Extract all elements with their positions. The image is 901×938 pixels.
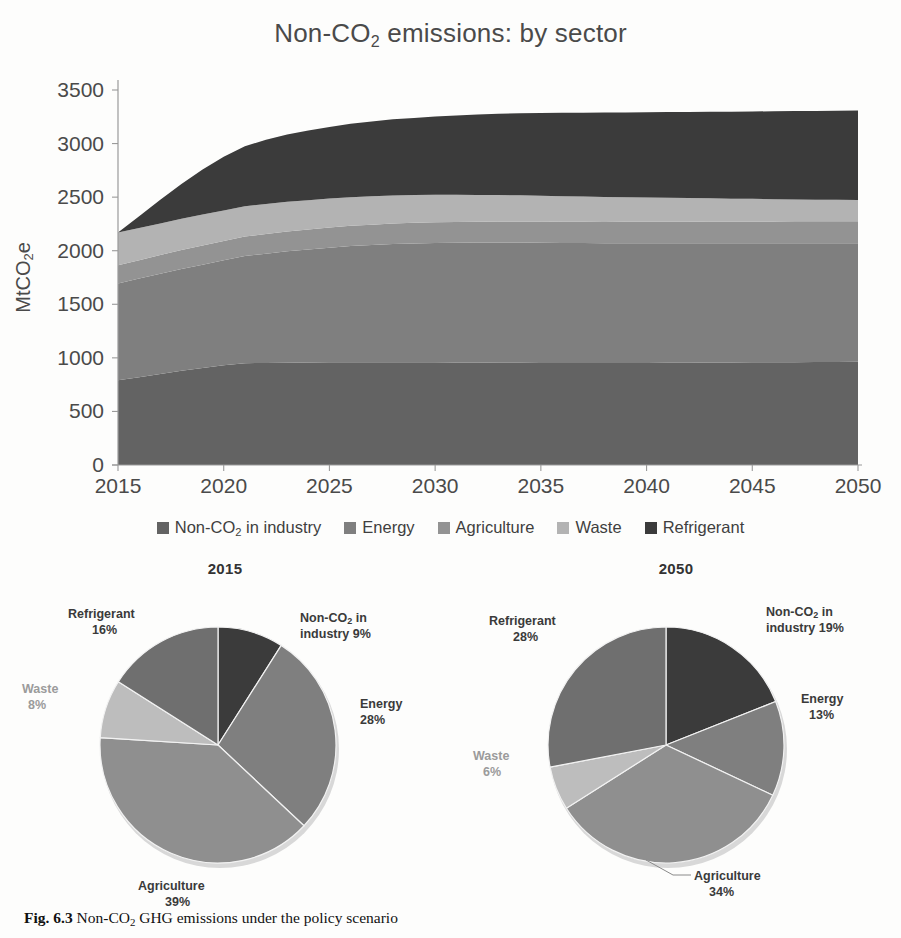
pie-label-non-co2-in-industry: Non-CO2 inindustry 9%	[300, 611, 371, 641]
pie-label-line1: Refrigerant	[489, 614, 557, 628]
y-tick-label: 1000	[57, 346, 104, 369]
pie-svg-2050: Non-CO2 inindustry 19%Energy13%Agricultu…	[451, 560, 901, 910]
y-tick-label: 3000	[57, 132, 104, 155]
legend-label-industry: Non-CO2 in industry	[175, 518, 322, 538]
pie-label-non-co2-in-industry: Non-CO2 inindustry 19%	[766, 605, 844, 635]
pie-chart-2050: 2050 Non-CO2 inindustry 19%Energy13%Agri…	[451, 560, 901, 910]
pie-label-line2: 13%	[809, 708, 834, 722]
x-tick-label: 2020	[200, 474, 247, 497]
pie-label-line1: Agriculture	[694, 869, 761, 883]
legend-label-waste: Waste	[575, 518, 621, 537]
area-chart-svg: 0500100015002000250030003500 20152020202…	[0, 70, 901, 520]
y-tick-label: 0	[92, 453, 104, 476]
x-tick-label: 2050	[835, 474, 882, 497]
pie-label-line2: industry 19%	[766, 621, 844, 635]
caption-text-a: Non-CO	[77, 909, 130, 926]
x-tick-label: 2015	[95, 474, 142, 497]
area-band-energy	[118, 242, 858, 380]
x-axis-tick-labels: 20152020202520302035204020452050	[95, 474, 882, 497]
caption-text-b: GHG emissions under the policy scenario	[135, 909, 398, 926]
stacked-area-chart: 0500100015002000250030003500 20152020202…	[0, 70, 901, 520]
pie-label-line2: 16%	[92, 623, 117, 637]
pie-label-agriculture: Agriculture39%	[138, 879, 205, 909]
pie-label-refrigerant: Refrigerant16%	[68, 607, 136, 637]
y-axis-tick-labels: 0500100015002000250030003500	[57, 78, 104, 476]
pie-label-line1: Non-CO2 in	[766, 605, 833, 620]
area-series-bands	[118, 110, 858, 465]
pie-charts-row: 2015 Non-CO2 inindustry 9%Energy28%Agric…	[0, 560, 901, 910]
pie-label-refrigerant: Refrigerant28%	[489, 614, 557, 644]
pie-label-energy: Energy13%	[801, 692, 843, 722]
legend-swatch-energy-icon	[344, 522, 356, 534]
y-tick-label: 2000	[57, 239, 104, 262]
y-axis-title: MtCO2e	[12, 242, 36, 313]
caption-label: Fig. 6.3	[24, 909, 73, 926]
chart-legend: Non-CO2 in industryEnergyAgricultureWast…	[0, 518, 901, 538]
figure-title-subscript: 2	[371, 32, 380, 50]
area-band-non-co2-in-industry	[118, 362, 858, 465]
pie-slice-refrigerant[interactable]	[548, 627, 666, 767]
pie-label-energy: Energy28%	[360, 697, 402, 727]
pie-label-line2: 39%	[165, 895, 190, 909]
y-tick-label: 500	[69, 399, 104, 422]
legend-swatch-waste-icon	[557, 522, 569, 534]
legend-item-agriculture[interactable]: Agriculture	[438, 518, 535, 537]
pie-label-line2: 34%	[709, 885, 734, 899]
x-tick-label: 2045	[729, 474, 776, 497]
pie-label-line1: Energy	[801, 692, 843, 706]
pie-label-line1: Energy	[360, 697, 402, 711]
pie-label-line2: 28%	[360, 713, 385, 727]
pie-chart-2015: 2015 Non-CO2 inindustry 9%Energy28%Agric…	[0, 560, 450, 910]
pie-label-line1: Non-CO2 in	[300, 611, 367, 626]
pie-label-waste: Waste6%	[473, 749, 509, 779]
legend-swatch-agriculture-icon	[438, 522, 450, 534]
x-tick-label: 2040	[623, 474, 670, 497]
y-tick-label: 1500	[57, 292, 104, 315]
x-tick-label: 2025	[306, 474, 353, 497]
legend-item-industry[interactable]: Non-CO2 in industry	[157, 518, 322, 538]
legend-swatch-refrigerant-icon	[645, 522, 657, 534]
y-tick-label: 3500	[57, 78, 104, 101]
figure-caption: Fig. 6.3 Non-CO2 GHG emissions under the…	[24, 908, 884, 929]
legend-label-agriculture: Agriculture	[456, 518, 535, 537]
pie-svg-2015: Non-CO2 inindustry 9%Energy28%Agricultur…	[0, 560, 450, 910]
legend-item-waste[interactable]: Waste	[557, 518, 621, 537]
pie-label-line1: Refrigerant	[68, 607, 136, 621]
y-tick-label: 2500	[57, 185, 104, 208]
pie-label-line2: 6%	[483, 765, 501, 779]
legend-label-energy: Energy	[362, 518, 414, 537]
pie-label-line1: Waste	[22, 682, 58, 696]
x-tick-label: 2035	[517, 474, 564, 497]
pie-label-line2: 8%	[28, 698, 46, 712]
figure-title: Non-CO2 emissions: by sector	[0, 18, 901, 51]
legend-label-refrigerant: Refrigerant	[663, 518, 745, 537]
figure-title-suffix: emissions: by sector	[380, 18, 627, 48]
pie-label-line1: Agriculture	[138, 879, 205, 893]
figure-title-prefix: Non-CO	[274, 18, 371, 48]
legend-item-energy[interactable]: Energy	[344, 518, 414, 537]
pie-label-waste: Waste8%	[22, 682, 58, 712]
pie-label-line1: Waste	[473, 749, 509, 763]
x-tick-label: 2030	[412, 474, 459, 497]
legend-swatch-industry-icon	[157, 522, 169, 534]
pie-label-line2: 28%	[513, 630, 538, 644]
legend-item-refrigerant[interactable]: Refrigerant	[645, 518, 745, 537]
pie-label-line2: industry 9%	[300, 627, 371, 641]
